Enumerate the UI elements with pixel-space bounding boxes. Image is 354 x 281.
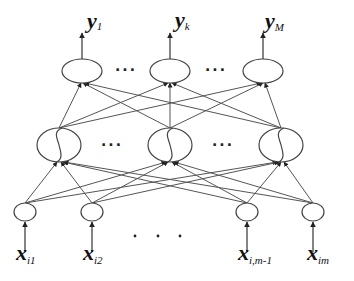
output-ellipsis-left: ··· xyxy=(115,62,137,78)
output-layer: ··· ··· y1 yk yM xyxy=(62,7,285,83)
label-xim: xim xyxy=(306,240,329,266)
input-node-m-1 xyxy=(236,203,258,221)
input-node-2 xyxy=(81,203,103,221)
input-ellipsis-dot xyxy=(179,235,182,238)
label-xi1: xi1 xyxy=(15,240,36,266)
input-layer: xi1 xi2 xi,m-1 xim xyxy=(14,203,329,266)
hidden-ellipsis-right: ··· xyxy=(212,137,234,153)
input-node-m xyxy=(302,203,324,221)
hidden-to-output-edges xyxy=(59,83,281,128)
output-node-k xyxy=(150,59,190,83)
input-ellipsis-dot xyxy=(157,235,160,238)
output-node-M xyxy=(243,59,283,83)
neural-network-diagram: ··· ··· y1 yk yM ··· ··· xyxy=(0,0,354,281)
output-node-1 xyxy=(62,59,102,83)
label-yk: yk xyxy=(172,7,191,32)
label-xim1: xi,m-1 xyxy=(237,240,272,266)
hidden-ellipsis-left: ··· xyxy=(101,137,123,153)
label-y1: y1 xyxy=(84,8,102,33)
label-xi2: xi2 xyxy=(82,240,103,266)
input-ellipsis-dot xyxy=(134,235,137,238)
hidden-layer: ··· ··· xyxy=(37,128,303,162)
label-yM: yM xyxy=(262,8,285,33)
output-ellipsis-right: ··· xyxy=(205,62,227,78)
input-to-hidden-edges xyxy=(25,162,313,203)
input-node-1 xyxy=(14,203,36,221)
